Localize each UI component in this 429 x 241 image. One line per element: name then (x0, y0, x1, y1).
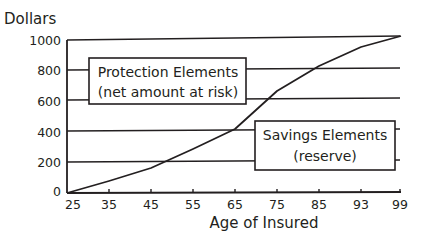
protection-label-line1: Protection Elements (98, 64, 239, 80)
gridline-1000 (67, 36, 400, 40)
y-tick-labels: 1000 800 600 400 200 0 (29, 33, 61, 199)
x-tick-25: 25 (65, 197, 81, 212)
x-tick-45: 45 (143, 197, 159, 212)
y-tick-0: 0 (53, 184, 61, 199)
x-axis (67, 192, 401, 193)
x-tick-75: 75 (269, 197, 285, 212)
x-tick-35: 35 (101, 197, 117, 212)
y-tick-200: 200 (37, 155, 61, 170)
savings-label-line1: Savings Elements (263, 127, 387, 143)
y-tick-600: 600 (37, 94, 61, 109)
savings-elements-annotation: Savings Elements (reserve) (255, 121, 395, 170)
savings-label-line2: (reserve) (293, 148, 357, 164)
y-tick-800: 800 (37, 63, 61, 78)
y-tick-1000: 1000 (29, 33, 61, 48)
y-tick-400: 400 (37, 125, 61, 140)
x-tick-55: 55 (185, 197, 201, 212)
x-tick-93: 93 (353, 197, 369, 212)
x-tick-85: 85 (311, 197, 327, 212)
y-axis-title: Dollars (4, 10, 56, 28)
protection-label-line2: (net amount at risk) (98, 84, 238, 100)
protection-elements-annotation: Protection Elements (net amount at risk) (89, 58, 246, 104)
chart: Dollars 1000 800 600 400 200 0 25 35 45 … (0, 0, 429, 241)
x-tick-labels: 25 35 45 55 65 75 85 93 99 (65, 197, 408, 212)
x-tick-65: 65 (227, 197, 243, 212)
x-axis-title: Age of Insured (210, 214, 319, 232)
x-tick-99: 99 (392, 197, 408, 212)
